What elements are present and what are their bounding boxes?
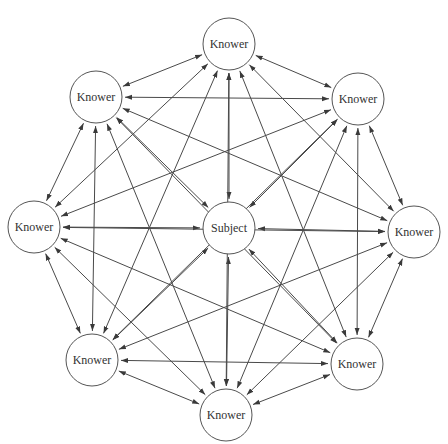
node-knower-top: Knower bbox=[203, 18, 255, 70]
node-label: Subject bbox=[211, 221, 248, 235]
node-knower-left: Knower bbox=[8, 201, 60, 253]
node-label: Knower bbox=[395, 225, 434, 239]
node-label: Knower bbox=[210, 37, 249, 51]
node-subject: Subject bbox=[203, 202, 255, 254]
node-knower-top-right: Knower bbox=[332, 73, 384, 125]
edge-knower-bottom-to-knower-bottom-left bbox=[119, 371, 199, 404]
node-knower-right: Knower bbox=[388, 206, 440, 258]
node-knower-bottom-right: Knower bbox=[331, 338, 383, 390]
edge-knower-bottom-right-to-knower-bottom bbox=[253, 375, 330, 405]
knower-subject-network-diagram: SubjectKnowerKnowerKnowerKnowerKnowerKno… bbox=[0, 0, 448, 444]
edge-knower-top-to-knower-top-left bbox=[123, 55, 202, 87]
node-label: Knower bbox=[15, 220, 54, 234]
node-knower-top-left: Knower bbox=[70, 71, 122, 123]
edge-knower-top-right-to-knower-right bbox=[369, 126, 402, 206]
node-label: Knower bbox=[338, 357, 377, 371]
edge-knower-left-to-knower-top-left bbox=[47, 123, 84, 201]
edge-knower-bottom-left-to-knower-top-left bbox=[92, 126, 95, 331]
edge-knower-right-to-knower-bottom-right bbox=[369, 259, 403, 338]
node-label: Knower bbox=[73, 353, 112, 367]
node-knower-bottom: Knower bbox=[200, 389, 252, 441]
node-label: Knower bbox=[77, 90, 116, 104]
node-knower-bottom-left: Knower bbox=[66, 334, 118, 386]
edge-knower-top-to-knower-bottom-right bbox=[240, 71, 346, 337]
node-label: Knower bbox=[207, 408, 246, 422]
node-label: Knower bbox=[339, 92, 378, 106]
edge-knower-bottom-left-to-knower-left bbox=[46, 254, 81, 334]
edge-subject-to-knower-top-left bbox=[117, 117, 209, 207]
edge-knower-top-right-to-knower-top-left bbox=[125, 97, 329, 99]
edge-knower-bottom-right-to-knower-bottom-left bbox=[121, 360, 328, 363]
nodes-layer: SubjectKnowerKnowerKnowerKnowerKnowerKno… bbox=[8, 18, 440, 441]
